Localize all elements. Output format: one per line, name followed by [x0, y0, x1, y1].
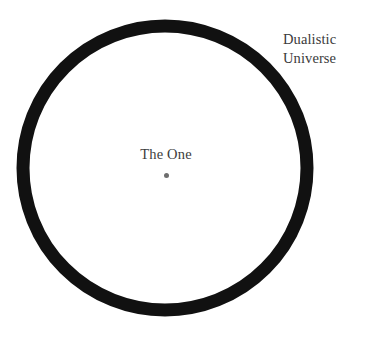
the-one-group: The One [96, 146, 236, 179]
dualistic-universe-label-line2: Universe [283, 49, 369, 68]
the-one-label: The One [96, 146, 236, 163]
dualistic-universe-label-line1: Dualistic [283, 30, 369, 49]
diagram-canvas: Dualistic Universe The One [0, 0, 372, 350]
the-one-dot-wrap [96, 173, 236, 179]
the-one-dot-icon [164, 173, 169, 178]
dualistic-universe-label: Dualistic Universe [283, 30, 369, 68]
